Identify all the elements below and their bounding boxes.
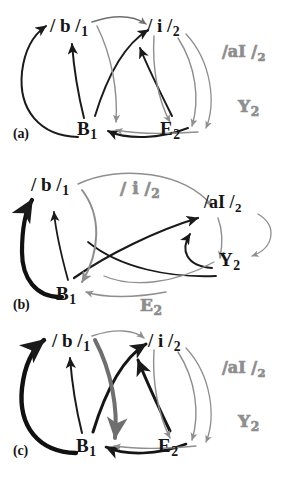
node-a-word-y: Y2 [238, 98, 259, 118]
arc-a-E2-to-B1-gray [116, 130, 198, 133]
node-b-phoneme-b: / b /1 [31, 175, 69, 198]
node-a-word-b: B1 [77, 119, 97, 142]
panel-a-caption: (a) [13, 126, 29, 142]
arc-b-b1-to-B1 [82, 190, 96, 282]
arc-c-E2-to-B1-gray [114, 446, 196, 448]
arc-b-E2-to-B1 [86, 292, 166, 297]
panel-b: / b /1 / i /2 /aI /2 Y2 B1 E2 (b) [0, 158, 295, 318]
arc-b-Y2-to-b1-tail [88, 242, 216, 276]
node-b-phoneme-ai: /aI /2 [204, 193, 242, 215]
node-c-word-y: Y2 [238, 413, 259, 433]
node-c-word-b: B1 [76, 436, 96, 459]
arc-b-Y2-to-ai2 [185, 234, 212, 268]
arc-a-B1-to-b1 [22, 26, 78, 137]
node-c-word-e: E2 [158, 436, 178, 459]
arc-c-B1-to-b1-thin [70, 358, 82, 433]
node-c-phoneme-i: / i /2 [148, 331, 181, 354]
arc-a-B1-to-i2 [95, 30, 148, 116]
arc-c-i2-to-E2-far [186, 348, 211, 442]
activation-network-figure: / b /1 / i /2 /aI /2 Y2 B1 E2 (a) [0, 0, 295, 483]
node-a-phoneme-b: / b /1 [50, 16, 88, 39]
node-b-phoneme-i: / i /2 [120, 180, 160, 200]
panel-c: / b /1 / i /2 /aI /2 Y2 B1 E2 (c) [0, 318, 295, 483]
node-b-word-b: B1 [56, 284, 76, 307]
arc-a-b1-to-B1 [97, 26, 116, 122]
arc-a-i2-to-E2-outer [178, 38, 196, 126]
arc-b-B1-to-ai2 [74, 218, 198, 278]
arc-a-b1-to-i2 [92, 17, 146, 24]
panel-b-caption: (b) [13, 297, 30, 313]
arc-a-B1-to-b1-short [72, 44, 84, 118]
panel-c-caption: (c) [13, 443, 28, 459]
node-c-phoneme-b: / b /1 [52, 331, 90, 354]
node-b-word-e: E2 [140, 297, 162, 317]
node-b-word-y: Y2 [219, 250, 240, 273]
arc-b-ai2-to-Y2-right [252, 214, 271, 256]
node-c-phoneme-ai: /aI /2 [222, 360, 266, 379]
arc-c-i2-to-E2-outer [178, 352, 196, 440]
arc-a-i2-to-E2-far [186, 34, 211, 128]
node-a-phoneme-i: / i /2 [147, 16, 180, 39]
arc-b-B1-to-b1-thin [54, 212, 68, 280]
arc-c-b1-to-B1-thick-gray [95, 340, 116, 438]
arc-c-B1-to-b1-thick [21, 340, 76, 453]
panel-a: / b /1 / i /2 /aI /2 Y2 B1 E2 (a) [0, 0, 295, 158]
node-a-phoneme-ai: /aI /2 [222, 44, 266, 63]
node-a-word-e: E2 [160, 119, 180, 142]
arc-c-b1-to-i2-gray [92, 331, 144, 338]
